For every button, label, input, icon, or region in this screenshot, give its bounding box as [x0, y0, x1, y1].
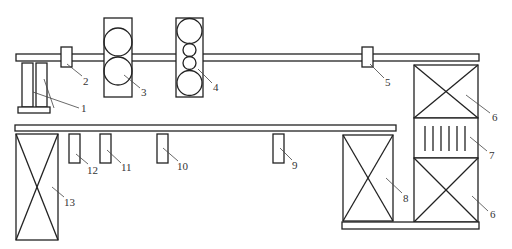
component-8-crossed-box [343, 135, 393, 221]
label-3: 3 [141, 86, 147, 98]
component-6-upper-crossed-box [414, 65, 478, 118]
process-line-diagram: 1 2 3 4 5 6 7 6 8 9 10 11 12 13 [0, 0, 512, 249]
middle-rail [15, 125, 396, 131]
label-13: 13 [64, 196, 76, 208]
label-9: 9 [292, 159, 298, 171]
component-3-roller-stand [104, 18, 132, 97]
component-1-posts [18, 63, 50, 113]
label-1: 1 [81, 102, 87, 114]
bottom-rail [342, 222, 479, 229]
label-5: 5 [385, 76, 391, 88]
component-5-box [362, 47, 373, 67]
label-10: 10 [177, 160, 189, 172]
label-6-upper: 6 [492, 111, 498, 123]
component-10-box [157, 134, 168, 163]
upper-rail [16, 54, 479, 61]
component-9-box [273, 134, 284, 163]
label-2: 2 [83, 75, 89, 87]
label-6-lower: 6 [490, 208, 496, 220]
label-4: 4 [213, 81, 219, 93]
component-2-box [61, 47, 72, 67]
component-6-lower-crossed-box [414, 158, 478, 222]
label-12: 12 [87, 164, 98, 176]
component-13-crossed-box [16, 134, 58, 240]
label-8: 8 [403, 192, 409, 204]
component-11-box [100, 134, 111, 163]
label-11: 11 [121, 161, 132, 173]
label-7: 7 [489, 149, 495, 161]
component-12-box [69, 134, 80, 163]
component-7-bar-box [414, 118, 478, 158]
component-4-roller-stand [176, 18, 203, 97]
